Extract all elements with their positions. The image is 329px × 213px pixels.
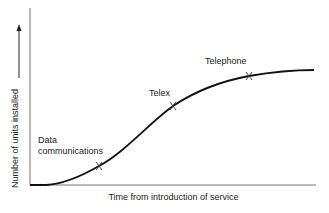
up-arrow-icon bbox=[17, 24, 22, 78]
adoption-curve bbox=[30, 70, 314, 185]
annotation-data-communications: Data communications bbox=[38, 135, 103, 157]
x-axis-label: Time from introduction of service bbox=[0, 192, 329, 202]
annotation-line-2: communications bbox=[38, 146, 103, 157]
adoption-chart: Number of units installed Data communica… bbox=[0, 0, 329, 213]
annotation-telephone: Telephone bbox=[205, 56, 247, 67]
y-axis-label: Number of units installed bbox=[10, 89, 21, 188]
x-marker-icon bbox=[96, 162, 102, 170]
chart-plot bbox=[0, 0, 329, 213]
annotation-line-1: Data bbox=[38, 135, 103, 146]
x-marker-icon bbox=[170, 102, 176, 110]
annotation-telex: Telex bbox=[149, 88, 170, 99]
